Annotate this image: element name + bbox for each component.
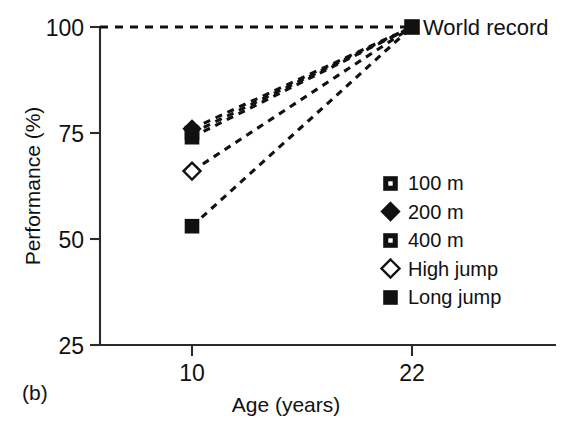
series-line-high-jump bbox=[192, 27, 412, 171]
open-diamond-icon bbox=[184, 163, 201, 180]
performance-vs-age-chart: Performance (%) 100 75 50 25 10 22 Age (… bbox=[0, 0, 572, 427]
data-points-age-10 bbox=[184, 120, 201, 232]
filled-square-icon bbox=[405, 20, 419, 34]
legend-item-long-jump: Long jump bbox=[384, 286, 501, 308]
data-point-world-record-age-22 bbox=[405, 20, 419, 34]
legend-item-high-jump: High jump bbox=[382, 258, 499, 280]
legend-label-long-jump: Long jump bbox=[408, 286, 501, 308]
panel-label: (b) bbox=[22, 381, 48, 404]
y-tick-label-75: 75 bbox=[58, 121, 84, 147]
filled-square-icon bbox=[384, 291, 397, 304]
square-hole-center-icon bbox=[388, 238, 392, 242]
marker-high-jump-age-10 bbox=[184, 163, 201, 180]
x-axis: 10 22 Age (years) bbox=[100, 345, 556, 416]
open-diamond-icon bbox=[382, 260, 400, 278]
legend-label-high-jump: High jump bbox=[408, 258, 498, 280]
y-axis-title: Performance (%) bbox=[21, 107, 44, 266]
y-tick-label-50: 50 bbox=[58, 227, 84, 253]
legend-label-100m: 100 m bbox=[408, 172, 464, 194]
y-tick-label-25: 25 bbox=[58, 333, 84, 359]
filled-square-icon bbox=[186, 220, 199, 233]
legend-item-200m: 200 m bbox=[382, 201, 464, 223]
legend-item-400m: 400 m bbox=[384, 229, 464, 251]
square-dot-center-icon bbox=[388, 181, 392, 185]
y-axis-title-text: Performance (%) bbox=[21, 107, 44, 266]
y-tick-label-100: 100 bbox=[46, 15, 84, 41]
legend-label-400m: 400 m bbox=[408, 229, 464, 251]
chart-legend: 100 m 200 m 400 m High jump Long jump bbox=[382, 172, 502, 308]
legend-item-100m: 100 m bbox=[384, 172, 464, 194]
world-record-annotation: World record bbox=[423, 15, 549, 40]
world-record-label: World record bbox=[423, 15, 549, 40]
x-axis-title-text: Age (years) bbox=[232, 393, 341, 416]
y-axis: 100 75 50 25 bbox=[46, 15, 100, 359]
series-lines bbox=[192, 27, 412, 226]
legend-label-200m: 200 m bbox=[408, 201, 464, 223]
filled-diamond-icon bbox=[382, 203, 400, 221]
x-tick-label-10: 10 bbox=[179, 360, 205, 386]
series-line-400m bbox=[192, 27, 412, 137]
chart-figure: Performance (%) 100 75 50 25 10 22 Age (… bbox=[0, 0, 572, 427]
x-tick-label-22: 22 bbox=[399, 360, 425, 386]
series-line-long-jump bbox=[192, 27, 412, 226]
marker-long-jump-age-10 bbox=[186, 220, 199, 233]
panel-label-text: (b) bbox=[22, 381, 48, 404]
